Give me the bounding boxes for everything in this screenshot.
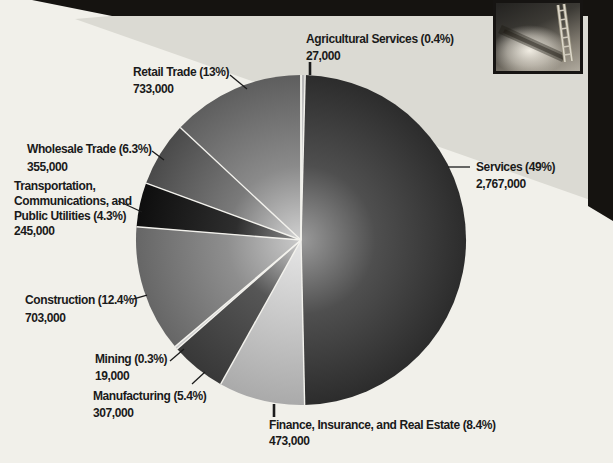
callout-construction: Construction (12.4%) 703,000 xyxy=(25,291,137,327)
callout-agricultural-services: Agricultural Services (0.4%) 27,000 xyxy=(306,31,454,65)
pie-slice-services xyxy=(301,75,466,405)
leader-retail-trade xyxy=(230,75,247,89)
figure-employment-pie: Agricultural Services (0.4%) 27,000 Serv… xyxy=(0,0,613,463)
callout-manufacturing: Manufacturing (5.4%) 307,000 xyxy=(93,388,206,422)
callout-transportation-communications-utilities: Transportation, Communications, and Publ… xyxy=(14,179,132,239)
callout-services: Services (49%) 2,767,000 xyxy=(476,159,555,193)
callout-retail-trade: Retail Trade (13%) 733,000 xyxy=(133,64,229,98)
callout-finance-insurance-real-estate: Finance, Insurance, and Real Estate (8.4… xyxy=(269,417,496,449)
leader-manufacturing xyxy=(192,372,205,384)
callout-wholesale-trade: Wholesale Trade (6.3%) 355,000 xyxy=(27,140,152,176)
callout-mining: Mining (0.3%) 19,000 xyxy=(95,351,167,385)
leader-mining xyxy=(170,349,184,361)
